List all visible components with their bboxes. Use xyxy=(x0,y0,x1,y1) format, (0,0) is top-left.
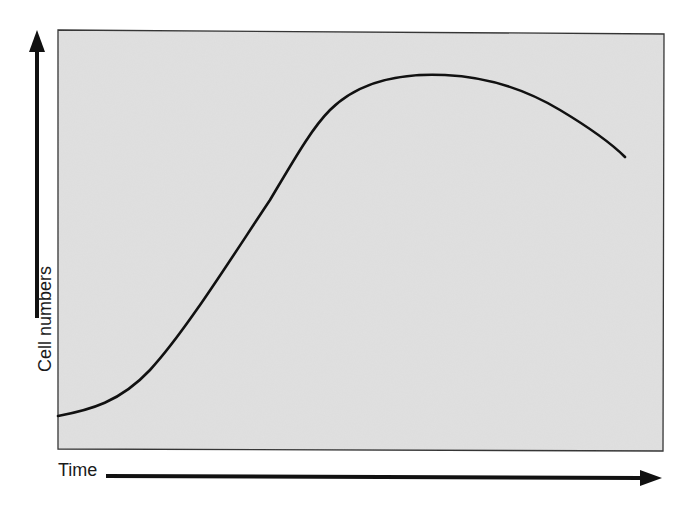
x-axis-arrow xyxy=(106,470,662,486)
x-axis-label: Time xyxy=(58,460,97,481)
chart-canvas xyxy=(0,0,696,507)
y-axis-label: Cell numbers xyxy=(35,266,56,372)
plot-area xyxy=(58,30,664,451)
